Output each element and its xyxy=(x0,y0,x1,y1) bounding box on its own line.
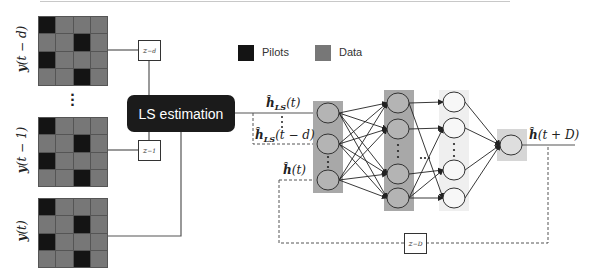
data-cell xyxy=(39,135,55,151)
data-cell xyxy=(91,199,107,215)
data-cell xyxy=(74,118,90,134)
data-cell xyxy=(91,135,107,151)
pilot-cell xyxy=(74,135,90,151)
data-cell xyxy=(56,199,72,215)
diagram-canvas: y(t − d) y(t − 1) y(t) ··· z−d z−1 z−D L… xyxy=(0,0,598,273)
edges-input-hidden1 xyxy=(339,103,387,198)
label-y-t: y(t) xyxy=(15,201,29,261)
pilot-cell xyxy=(74,216,90,232)
data-cell xyxy=(91,17,107,33)
delay-z-minus-d: z−d xyxy=(138,40,161,61)
grid-y-t-minus-1 xyxy=(38,117,108,187)
legend-data-label: Data xyxy=(339,46,362,58)
pilot-cell xyxy=(74,69,90,85)
data-cell xyxy=(74,17,90,33)
data-cell xyxy=(56,69,72,85)
edges-hidden1-hiddenN xyxy=(409,102,443,198)
data-cell xyxy=(56,251,72,267)
data-cell xyxy=(56,34,72,50)
input-layer-nodes xyxy=(317,103,339,190)
data-cell xyxy=(39,251,55,267)
data-cell xyxy=(56,216,72,232)
label-h-ls-t: ĥLS(t) xyxy=(266,96,300,112)
output-node xyxy=(500,135,522,155)
data-cell xyxy=(56,170,72,186)
data-cell xyxy=(91,251,107,267)
grid-y-t-minus-d xyxy=(38,16,108,86)
data-cell xyxy=(56,52,72,68)
delay-z-minus-D: z−D xyxy=(404,233,427,254)
delay-z-minus-1: z−1 xyxy=(138,140,161,161)
legend-pilots-swatch xyxy=(238,45,254,61)
data-cell xyxy=(74,234,90,250)
pilot-cell xyxy=(39,199,55,215)
data-cell xyxy=(91,52,107,68)
data-cell xyxy=(91,216,107,232)
pilot-cell xyxy=(39,118,55,134)
grid-vertical-ellipsis: ··· xyxy=(70,92,75,107)
pilot-cell xyxy=(74,34,90,50)
data-cell xyxy=(56,17,72,33)
pilot-cell xyxy=(74,170,90,186)
label-h-t: ĥ(t) xyxy=(283,163,306,177)
data-cell xyxy=(39,69,55,85)
data-cell xyxy=(74,52,90,68)
edges-hiddenN-output xyxy=(465,102,500,198)
data-cell xyxy=(56,135,72,151)
data-cell xyxy=(74,153,90,169)
data-cell xyxy=(39,34,55,50)
data-cell xyxy=(56,118,72,134)
data-cell xyxy=(91,69,107,85)
data-cell xyxy=(91,34,107,50)
data-cell xyxy=(56,153,72,169)
ls-estimation-block: LS estimation xyxy=(127,95,235,132)
pilot-cell xyxy=(74,251,90,267)
label-h-ls-t-minus-d: ĥLS(t − d) xyxy=(255,128,315,144)
data-cell xyxy=(91,153,107,169)
data-cell xyxy=(91,170,107,186)
pilot-cell xyxy=(39,52,55,68)
pilot-cell xyxy=(39,153,55,169)
data-cell xyxy=(39,170,55,186)
label-h-t-plus-D: ĥ(t + D) xyxy=(529,128,579,142)
data-cell xyxy=(74,199,90,215)
grid-y-t xyxy=(38,198,108,268)
pilot-cell xyxy=(39,234,55,250)
ls-estimation-label: LS estimation xyxy=(139,106,224,122)
label-y-t-minus-d: y(t − d) xyxy=(15,19,29,79)
data-cell xyxy=(39,216,55,232)
data-cell xyxy=(91,234,107,250)
pilot-cell xyxy=(39,17,55,33)
legend-data-swatch xyxy=(315,45,331,61)
label-y-t-minus-1: y(t − 1) xyxy=(15,120,29,180)
legend-pilots-label: Pilots xyxy=(262,46,289,58)
data-cell xyxy=(91,118,107,134)
data-cell xyxy=(56,234,72,250)
